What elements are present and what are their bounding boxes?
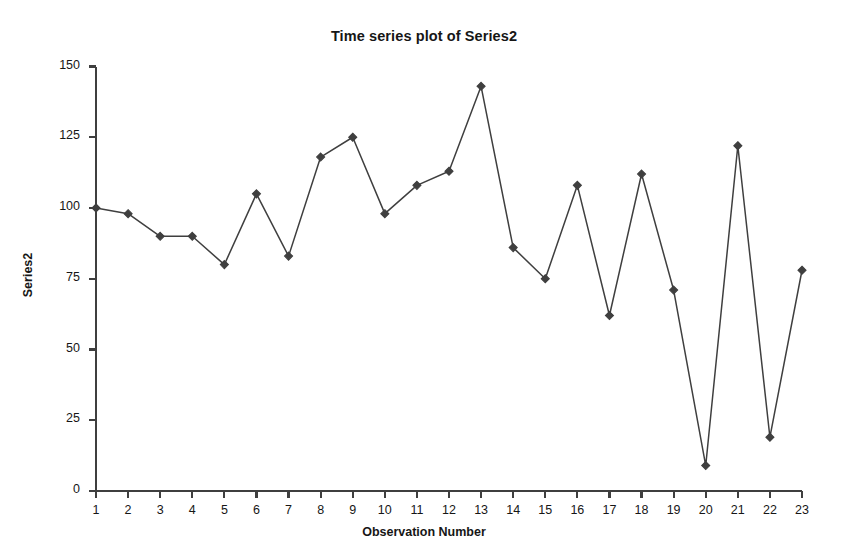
plot-area bbox=[0, 0, 848, 558]
data-point bbox=[605, 312, 613, 320]
data-point bbox=[702, 462, 710, 470]
data-point bbox=[670, 286, 678, 294]
series-line bbox=[96, 86, 802, 465]
data-point bbox=[734, 142, 742, 150]
data-point bbox=[798, 266, 806, 274]
data-point bbox=[317, 153, 325, 161]
axis-lines bbox=[96, 67, 802, 492]
data-point bbox=[477, 82, 485, 90]
data-point bbox=[285, 252, 293, 260]
data-point bbox=[573, 181, 581, 189]
series-markers bbox=[92, 82, 806, 469]
data-point bbox=[766, 433, 774, 441]
time-series-chart: Time series plot of Series2 Series2 Obse… bbox=[0, 0, 848, 558]
data-point bbox=[92, 204, 100, 212]
data-point bbox=[445, 167, 453, 175]
data-point bbox=[252, 190, 260, 198]
data-point bbox=[349, 133, 357, 141]
data-point bbox=[638, 170, 646, 178]
